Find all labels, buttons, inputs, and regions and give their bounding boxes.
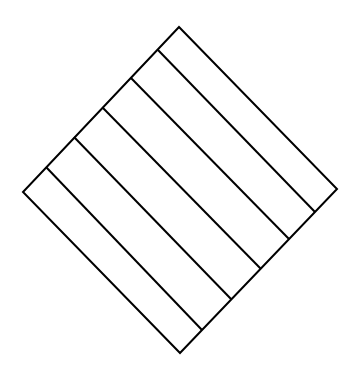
stripe-lines: [46, 50, 315, 330]
striped-diamond-diagram: [0, 0, 349, 383]
stripe-line-4: [131, 78, 289, 239]
diamond-outline: [23, 27, 337, 353]
stripe-line-2: [74, 137, 231, 299]
stripe-line-1: [46, 167, 202, 330]
